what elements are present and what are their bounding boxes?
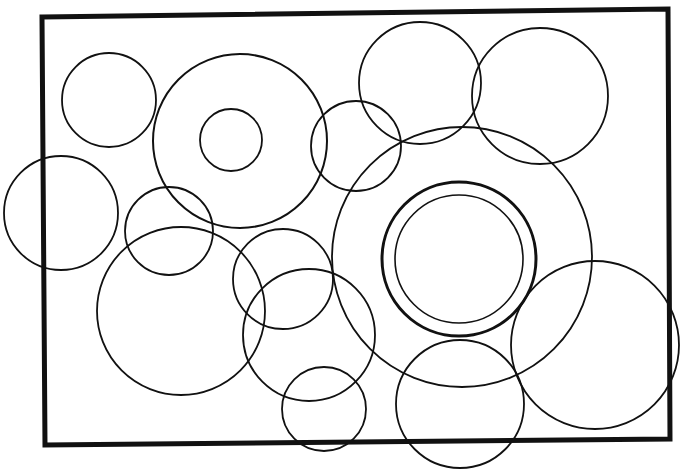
background bbox=[0, 0, 690, 475]
circles-drawing bbox=[0, 0, 690, 475]
drawing-svg bbox=[0, 0, 690, 475]
